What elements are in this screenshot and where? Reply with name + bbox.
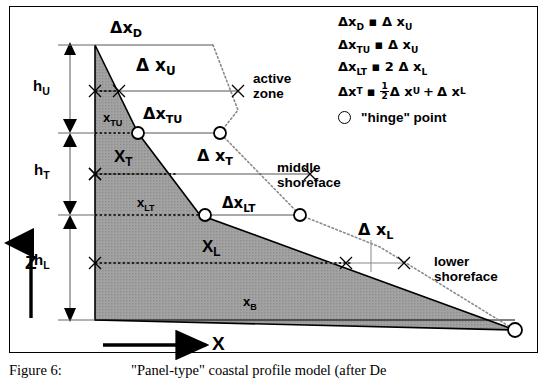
depth-label-hU: hU [33,78,50,97]
volume-label-xT: XT [114,148,133,169]
legend-equation-2: ΔxTU ▪ Δ xU [338,37,528,55]
zone-label-middle-shoreface: middle shoreface [277,160,341,190]
displacement-label-dxT: Δ xT [197,148,233,167]
hinge-circle-icon [338,111,351,124]
caption-text: "Panel-type" coastal profile model (afte… [131,362,386,379]
legend-equation-1: ΔxD ▪ Δ xU [338,14,528,32]
volume-label-xTU: xTU [103,111,122,128]
one-half-fraction: 1 2 [380,82,388,101]
zone-label-active-zone: active zone [253,71,291,101]
legend-hinge-label: "hinge" point [361,110,447,125]
volume-label-xB: xB [243,295,257,312]
legend-equation-3: ΔxLT ▪ 2 Δ xL [338,59,528,77]
legend-hinge-entry: "hinge" point [338,110,528,125]
displacement-label-dxU: Δ xU [136,57,176,78]
volume-label-xLT: xLT [137,196,155,213]
x-axis-label: X [212,334,225,353]
caption-number: Figure 6: [9,362,62,379]
zone-label-lower-shoreface: lower shoreface [434,254,498,284]
volume-label-xL: XL [202,238,221,259]
displacement-label-dxD: ΔxD [110,20,142,39]
legend: ΔxD ▪ Δ xU ΔxTU ▪ Δ xU ΔxLT ▪ 2 Δ xL ΔxT… [338,14,528,125]
displacement-label-dxLT: ΔxLT [222,196,255,214]
figure-6-coastal-profile: Z X hU hT hL xTU XT xLT XL xB ΔxD Δ xU Δ… [0,0,548,388]
legend-equation-4: ΔxT ▪ 1 2 Δ xU + Δ xL [338,82,528,101]
depth-label-hT: hT [34,162,50,181]
displacement-label-dxL: Δ xL [358,222,393,241]
depth-label-hL: hL [34,252,50,271]
displacement-label-dxTU: ΔxTU [143,106,182,125]
